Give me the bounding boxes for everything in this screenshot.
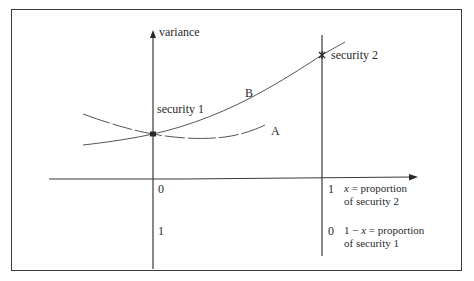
curve-b-label: B	[245, 86, 253, 100]
curve-a-label: A	[271, 124, 280, 138]
curve-a	[83, 114, 265, 138]
security-2-marker-icon	[319, 51, 325, 59]
x-axis-right	[182, 177, 412, 179]
security-1-marker-icon	[150, 132, 156, 137]
security-2-label: security 2	[331, 48, 378, 62]
tick-1minusx-0: 0	[328, 224, 334, 238]
tick-1minusx-1: 1	[158, 224, 164, 238]
one-minus-x-proportion-description: 1 − x = proportion of security 1	[344, 224, 424, 250]
tick-x-1: 1	[328, 182, 334, 196]
tick-x-0: 0	[158, 182, 164, 196]
y-axis-arrowhead-icon	[150, 30, 156, 38]
x-axis-arrowhead-icon	[409, 174, 418, 181]
curve-b	[83, 42, 345, 145]
x-proportion-description: x = proportion of security 2	[344, 182, 407, 208]
y-axis-label: variance	[159, 25, 200, 39]
security-1-label: security 1	[157, 102, 204, 116]
